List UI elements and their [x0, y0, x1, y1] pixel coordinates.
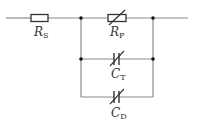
label-cd: CD	[111, 106, 127, 121]
node-dot	[151, 57, 155, 61]
node-dot	[151, 16, 155, 20]
label-rp: RP	[109, 25, 125, 40]
resistor-rs	[31, 15, 48, 22]
node-dot	[79, 16, 83, 20]
variable-resistor-rp	[108, 10, 126, 25]
circuit-diagram: RS RP CT CD	[0, 0, 202, 140]
label-rs: RS	[33, 25, 49, 40]
node-dot	[79, 57, 83, 61]
label-ct: CT	[111, 67, 126, 82]
